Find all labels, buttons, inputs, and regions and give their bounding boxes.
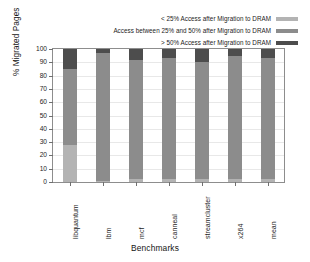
x-axis-tick-label: mcf bbox=[138, 228, 145, 239]
bar-segment bbox=[63, 69, 77, 145]
chart-legend: < 25% Access after Migration to DRAMAcce… bbox=[58, 13, 298, 49]
bar-stack bbox=[162, 49, 176, 182]
bar-segment bbox=[63, 145, 77, 182]
bar-stack bbox=[195, 49, 209, 182]
bar-stack bbox=[261, 49, 275, 182]
bar-segment bbox=[195, 49, 209, 62]
x-axis-tick-mark bbox=[268, 182, 269, 186]
legend-color-swatch bbox=[276, 29, 298, 33]
bar-segment bbox=[195, 62, 209, 179]
bar-stack bbox=[129, 49, 143, 182]
x-axis-tick-mark bbox=[70, 182, 71, 186]
y-axis-tick-label: 20 bbox=[40, 152, 47, 159]
y-axis-title: % Migrated Pages bbox=[12, 8, 21, 77]
x-axis-tick-label: streamcluster bbox=[204, 196, 211, 239]
y-axis-tick-label: 100 bbox=[36, 46, 47, 53]
x-axis-tick-mark bbox=[103, 182, 104, 186]
legend-item: < 25% Access after Migration to DRAM bbox=[58, 13, 298, 24]
legend-item: Access between 25% and 50% after Migrati… bbox=[58, 25, 298, 36]
bar-segment bbox=[162, 58, 176, 179]
chart-figure: < 25% Access after Migration to DRAMAcce… bbox=[0, 0, 310, 262]
bar-segment bbox=[228, 49, 242, 56]
x-axis-title: Benchmarks bbox=[0, 243, 310, 253]
x-axis-tick-mark bbox=[202, 182, 203, 186]
legend-item-label: Access between 25% and 50% after Migrati… bbox=[113, 27, 271, 34]
bar-stack bbox=[63, 49, 77, 182]
y-axis-tick-label: 30 bbox=[40, 139, 47, 146]
bar-segment bbox=[162, 49, 176, 58]
bar-series-container bbox=[53, 49, 284, 182]
bar-segment bbox=[261, 58, 275, 179]
bar-segment bbox=[129, 60, 143, 180]
y-axis-tick-label: 60 bbox=[40, 99, 47, 106]
x-axis-tick-label: mean bbox=[270, 221, 277, 239]
x-axis-tick-mark bbox=[136, 182, 137, 186]
x-axis-tick-label: lbm bbox=[105, 228, 112, 239]
legend-color-swatch bbox=[276, 17, 298, 21]
bar-stack bbox=[228, 49, 242, 182]
x-axis-tick-label: canneal bbox=[171, 214, 178, 239]
y-axis-tick-mark bbox=[49, 182, 53, 183]
y-axis-tick-label: 80 bbox=[40, 72, 47, 79]
bar-stack bbox=[96, 49, 110, 182]
legend-item: > 50% Access after Migration to DRAM bbox=[58, 37, 298, 48]
legend-item-label: > 50% Access after Migration to DRAM bbox=[161, 39, 271, 46]
y-axis-tick-label: 40 bbox=[40, 125, 47, 132]
x-axis-tick-label: libquantum bbox=[72, 204, 79, 239]
y-axis-tick-label: 10 bbox=[40, 165, 47, 172]
legend-item-label: < 25% Access after Migration to DRAM bbox=[161, 15, 271, 22]
bar-segment bbox=[228, 56, 242, 180]
x-axis-tick-label: x264 bbox=[237, 224, 244, 239]
y-axis-tick-label: 70 bbox=[40, 86, 47, 93]
bar-segment bbox=[63, 49, 77, 69]
y-axis-tick-label: 0 bbox=[43, 179, 47, 186]
y-axis-tick-label: 90 bbox=[40, 59, 47, 66]
x-axis-tick-mark bbox=[169, 182, 170, 186]
x-axis-tick-labels: libquantumlbmmcfcannealstreamclusterx264… bbox=[52, 187, 285, 242]
bar-segment bbox=[261, 49, 275, 58]
legend-color-swatch bbox=[276, 41, 298, 45]
bar-segment bbox=[96, 53, 110, 181]
plot-area: 0102030405060708090100 bbox=[52, 48, 285, 183]
bar-segment bbox=[129, 49, 143, 60]
x-axis-tick-mark bbox=[235, 182, 236, 186]
y-axis-tick-label: 50 bbox=[40, 112, 47, 119]
